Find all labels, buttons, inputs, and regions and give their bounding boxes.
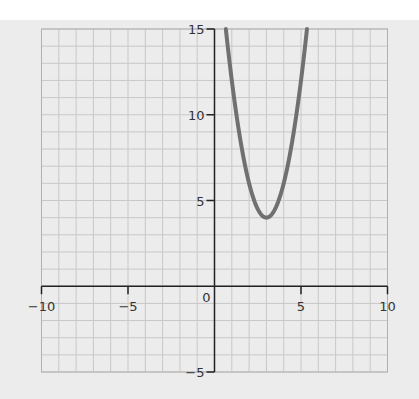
y-tick-label: 15: [188, 22, 205, 37]
y-tick-label: 5: [196, 194, 204, 209]
x-tick-label: −5: [118, 299, 137, 314]
function-plot: −10−5510−5510150: [0, 0, 419, 399]
y-tick-label: 10: [188, 108, 205, 123]
y-tick-label: −5: [185, 365, 204, 380]
chart-container: −10−5510−5510150: [0, 0, 419, 399]
x-tick-label: 10: [379, 299, 396, 314]
x-tick-label: 5: [297, 299, 305, 314]
origin-label: 0: [202, 290, 210, 305]
x-tick-label: −10: [28, 299, 55, 314]
